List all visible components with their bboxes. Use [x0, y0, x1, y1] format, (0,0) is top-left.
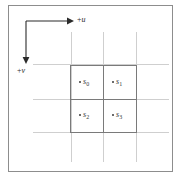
sample-point-s2: s2	[79, 111, 89, 119]
sample-label-s3: s3	[116, 111, 122, 119]
figure-frame: s0 s1 s2 s3	[8, 5, 173, 172]
sample-label-s0: s0	[83, 78, 89, 86]
sample-dot-icon	[112, 81, 114, 83]
pixel-block: s0 s1 s2 s3	[70, 65, 137, 133]
sample-dot-icon	[79, 114, 81, 116]
sample-dot-icon	[112, 114, 114, 116]
u-axis-label: +u	[77, 16, 86, 24]
sample-point-s3: s3	[112, 111, 122, 119]
sample-label-s2: s2	[83, 111, 89, 119]
sample-dot-icon	[79, 81, 81, 83]
figure-root: s0 s1 s2 s3	[0, 0, 182, 184]
pixel-block-divider-horizontal	[71, 99, 136, 100]
sample-point-s1: s1	[112, 78, 122, 86]
sample-label-s1: s1	[116, 78, 122, 86]
v-axis-label: +v	[17, 67, 25, 75]
sample-point-s0: s0	[79, 78, 89, 86]
